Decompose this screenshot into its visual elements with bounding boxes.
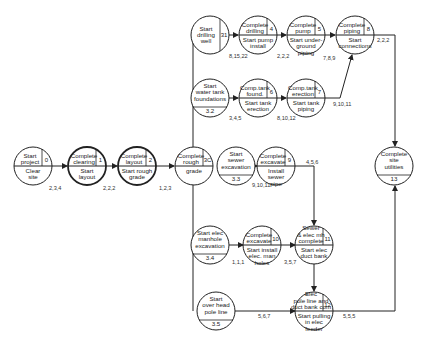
nodes: StartprojectClearsite0CompleteclearingSt…: [14, 16, 413, 332]
node-n3: Completeroughgrade3C: [175, 147, 213, 185]
node-top-label: rough: [183, 158, 199, 165]
node-n11: Sewer& elec mhcompleteStart elecduct ban…: [295, 224, 333, 264]
node-bottom-label: grade: [186, 167, 202, 174]
edge-label: 2,2,2: [377, 37, 389, 43]
node-bottom-label: connections: [338, 42, 371, 49]
node-n8: CompletepipingStartconnections8: [336, 16, 374, 54]
node-top-label: complete: [298, 237, 324, 244]
event-number: 3C: [204, 157, 212, 163]
node-bottom-label: layout: [79, 173, 96, 180]
edge-label: 8,15,22: [229, 53, 248, 59]
node-bottom-label: erection: [247, 105, 270, 112]
node-code: 13: [391, 175, 398, 182]
edge-label: 4,5,6: [306, 159, 318, 165]
edge-9-11: [295, 166, 314, 225]
edge-label: 1,1,1: [232, 259, 244, 265]
node-top-label: found.: [246, 90, 263, 97]
node-top-label: excavate: [247, 237, 272, 244]
event-number: 11: [324, 236, 331, 242]
node-label: excavation: [195, 242, 225, 249]
pert-network-diagram: 2,3,4 2,2,2 1,2,3 8,15,22 2,2,2 7,8,9 2,…: [0, 0, 425, 347]
node-top-label: piping: [344, 27, 361, 34]
node-bottom-label: duct bank: [301, 252, 329, 259]
node-label: excavation: [221, 163, 251, 170]
node-top-label: drilling: [246, 27, 264, 34]
node-bottom-label: grade: [129, 173, 145, 180]
node-n10: CompleteexcavateStart installelec. manho…: [243, 226, 281, 266]
node-top-label: erection: [292, 90, 315, 97]
node-n33: Startsewerexcavation3.3: [217, 147, 255, 185]
event-number: 10: [272, 236, 279, 242]
edge-label: 2,2,2: [103, 185, 115, 191]
node-top-label: project: [21, 158, 40, 165]
node-top-label: layout: [126, 158, 143, 165]
edge-label: 8,10,12: [277, 115, 296, 121]
edge-label: 3,4,5: [229, 115, 241, 121]
node-code: 3.4: [206, 254, 215, 261]
node-n2: CompletelayoutStart roughgrade2: [118, 147, 156, 185]
node-n9: CompleteexcavateInstallsewerpipe9: [257, 147, 295, 187]
node-n6: Comp.tankfound.Start tankerection6: [239, 79, 277, 117]
node-bottom-label: piping: [298, 49, 315, 56]
node-n34: Start elecmanholeexcavation3.4: [191, 226, 229, 264]
node-top-label: excavate: [261, 158, 286, 165]
node-n35: Startover headpole line3.5: [197, 292, 235, 330]
node-top-label: pump: [295, 27, 311, 34]
node-bottom-label: holes: [255, 259, 270, 266]
node-bottom-label: feeder: [305, 325, 323, 332]
edge-label: 5,5,5: [343, 313, 355, 319]
node-top-label: clearing: [73, 158, 95, 165]
event-number: 31: [221, 32, 228, 38]
node-n7: Comp.tankerectionStart tankpiping7: [287, 79, 325, 117]
node-label: foundations: [194, 95, 226, 102]
node-n0: StartprojectClearsite0: [14, 147, 52, 185]
edge-label: 5,6,7: [258, 313, 270, 319]
node-label: well: [200, 37, 212, 44]
node-bottom-label: piping: [298, 105, 315, 112]
node-bottom-label: pipe: [270, 180, 282, 187]
edge-8-13: [374, 35, 395, 146]
node-n5: CompletepumpStart under-groundpiping5: [287, 16, 325, 56]
edge-label: 9,10,11: [333, 101, 351, 107]
node-n32: Startwater tankfoundations3.2: [191, 79, 229, 117]
edge-label: 1,2,3: [159, 185, 171, 191]
node-code: 3.2: [206, 107, 215, 114]
node-bottom-label: install: [250, 42, 266, 49]
node-bottom-label: site: [28, 173, 38, 180]
edge-label: 2,2,2: [277, 53, 289, 59]
edge-7-8: [325, 55, 352, 98]
node-n13: Completesiteutilities13: [375, 147, 413, 185]
edge-label: 7,8,9: [323, 55, 335, 61]
node-label: pole line: [204, 308, 228, 315]
edge-12-13: [333, 186, 395, 311]
node-code: 3.5: [212, 320, 221, 327]
edge-label: 2,3,4: [49, 185, 61, 191]
event-number: 12: [324, 302, 331, 308]
node-n31: Startdrillingwell31: [191, 16, 229, 54]
edge-label: 3,5,7: [284, 259, 296, 265]
node-n12: Elecpole line andduct bank comStart pull…: [291, 290, 333, 332]
node-n4: CompletedrillingStart pumpinstall4: [239, 16, 277, 54]
node-n1: CompleteclearingStartlayout1: [68, 147, 106, 185]
node-label: utilities: [385, 163, 404, 170]
node-code: 3.3: [232, 175, 241, 182]
